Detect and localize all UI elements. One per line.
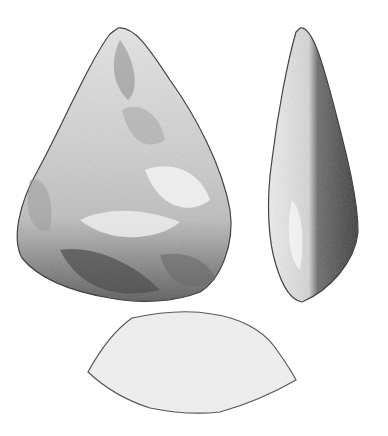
illustration-canvas	[0, 0, 388, 436]
side-view	[269, 28, 358, 302]
cross-section-view	[88, 312, 296, 413]
front-view	[17, 28, 231, 301]
hand-axe-drawing	[0, 0, 388, 436]
